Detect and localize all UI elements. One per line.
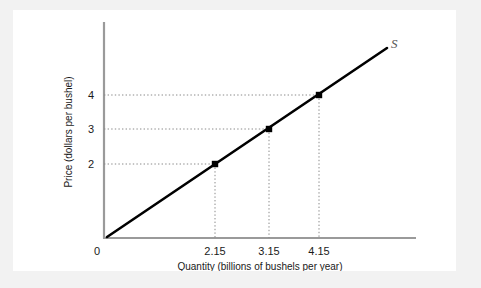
y-tick-label-4: 4 <box>88 89 94 101</box>
origin-label: 0 <box>94 245 100 257</box>
chart-panel: S 4 3 2 0 2.15 3.15 4.15 Quantity (billi… <box>13 10 456 271</box>
figure-root: S 4 3 2 0 2.15 3.15 4.15 Quantity (billi… <box>0 0 481 288</box>
y-tick-label-3: 3 <box>88 123 94 135</box>
supply-curve-chart: S 4 3 2 0 2.15 3.15 4.15 Quantity (billi… <box>13 10 456 271</box>
data-point-marker-415 <box>316 92 322 98</box>
data-point-marker-315 <box>266 126 272 132</box>
y-axis-title: Price (dollars per bushel) <box>63 76 74 187</box>
y-tick-label-2: 2 <box>88 158 94 170</box>
x-tick-label-215: 2.15 <box>204 245 225 257</box>
x-tick-label-315: 3.15 <box>258 245 279 257</box>
x-axis-title: Quantity (billions of bushels per year) <box>177 261 342 271</box>
supply-curve-line <box>107 48 387 237</box>
x-tick-label-415: 4.15 <box>308 245 329 257</box>
supply-curve-label: S <box>391 36 398 51</box>
data-point-marker-215 <box>212 161 218 167</box>
